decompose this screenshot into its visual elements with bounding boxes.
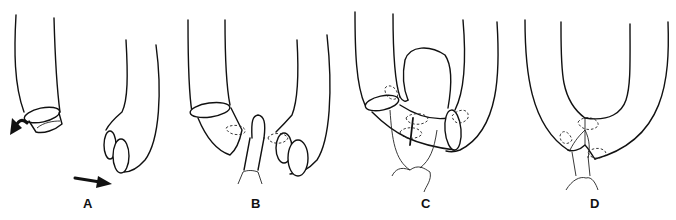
panel-d-drawing [525,20,668,190]
panel-label-d: D [590,196,599,211]
panel-label-c: C [421,196,430,211]
panel-b-drawing [188,20,330,184]
surgical-diagram [0,0,676,220]
panel-c-drawing [355,12,498,192]
straight-arrow-icon [96,176,112,188]
panel-a-drawing [10,15,159,188]
panel-label-a: A [83,196,92,211]
panel-label-b: B [251,196,260,211]
